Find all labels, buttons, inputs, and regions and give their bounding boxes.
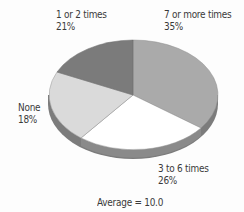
label-name: 1 or 2 times [56,8,107,20]
label-name: 7 or more times [164,8,231,20]
label-name: None [18,101,40,113]
label-name: 3 to 6 times [158,162,209,174]
label-pct: 21% [56,20,107,32]
average-annotation: Average = 10.0 [97,196,163,208]
label-3-to-6: 3 to 6 times 26% [158,162,209,186]
label-pct: 35% [164,20,231,32]
label-none: None 18% [18,101,40,125]
label-1-or-2: 1 or 2 times 21% [56,8,107,32]
label-pct: 26% [158,174,209,186]
label-pct: 18% [18,113,40,125]
label-7-or-more: 7 or more times 35% [164,8,231,32]
